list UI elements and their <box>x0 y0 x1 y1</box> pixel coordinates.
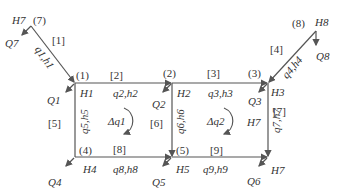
pipe-9-id: [9] <box>210 145 223 156</box>
node-4-outflow: Q4 <box>48 177 61 188</box>
node-2-head: H2 <box>177 88 190 99</box>
pipe-5-label: q5,h5 <box>79 109 90 134</box>
node-5-outflow: Q5 <box>152 177 165 188</box>
pipe-1-id: [1] <box>52 35 65 46</box>
pipe-2-id: [2] <box>110 70 123 81</box>
pipe-6-id: [6] <box>150 118 163 129</box>
node-7-id: (7) <box>33 15 46 26</box>
node-7-outflow: Q7 <box>5 38 18 49</box>
node-6-outflow: Q6 <box>247 176 260 187</box>
node-1-head: H1 <box>80 88 93 99</box>
pipe-5-id: [5] <box>48 118 61 129</box>
node-5-id: (5) <box>176 145 189 156</box>
node-5-head: H5 <box>176 164 189 175</box>
inner-h7-label: H7 <box>247 117 260 128</box>
pipe-8-label: q8,h8 <box>113 164 138 175</box>
node-6-head: H7 <box>271 165 284 176</box>
node-8-outflow: Q8 <box>316 51 329 62</box>
node-4-id: (4) <box>79 145 92 156</box>
pipe-8-id: [8] <box>113 144 126 155</box>
pipe-4-id: [4] <box>270 44 283 55</box>
node-8-id: (8) <box>292 18 305 29</box>
pipe-6-label: q6,h6 <box>175 109 186 134</box>
node-3-outflow: Q3 <box>248 96 261 107</box>
pipe-3-label: q3,h3 <box>208 88 233 99</box>
pipe-9-label: q9,h9 <box>203 164 228 175</box>
pipe-3-id: [3] <box>207 68 220 79</box>
node-3-head: H3 <box>271 87 284 98</box>
node-1-id: (1) <box>76 70 89 81</box>
node-4-head: H4 <box>83 164 96 175</box>
node-2-outflow: Q2 <box>152 99 165 110</box>
node-8-head: H8 <box>315 17 328 28</box>
node-3-id: (3) <box>248 68 261 79</box>
pipe-2-label: q2,h2 <box>113 88 138 99</box>
pipe-7-label: q7,h7 <box>271 108 282 133</box>
loop-2-label: Δq2 <box>207 116 224 127</box>
node-1-outflow: Q1 <box>47 95 60 106</box>
node-7-head: H7 <box>12 15 25 26</box>
node-2-id: (2) <box>163 68 176 79</box>
loop-1-label: Δq1 <box>108 116 125 127</box>
